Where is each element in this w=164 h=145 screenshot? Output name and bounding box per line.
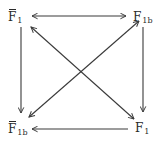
node-base: F	[133, 11, 141, 23]
commutative-diagram: F 1 F 1b F 1b F 1	[0, 0, 164, 145]
node-top-left: F 1	[8, 11, 22, 25]
node-base: F	[135, 122, 143, 134]
node-bottom-left: F 1b	[8, 123, 28, 137]
node-subscript: 1	[144, 127, 149, 136]
overbar	[9, 121, 16, 122]
node-letter: F	[8, 122, 16, 136]
node-subscript: 1b	[17, 128, 27, 137]
arrow-diagonal-tl-br	[31, 27, 134, 119]
node-subscript: 1	[17, 16, 22, 25]
node-base: F	[8, 123, 16, 135]
arrow-diagonal-tr-bl	[29, 21, 139, 117]
node-bottom-right: F 1	[135, 122, 149, 136]
node-letter: F	[8, 10, 16, 24]
overbar	[9, 9, 16, 10]
node-letter: F	[135, 121, 143, 135]
node-subscript: 1b	[142, 16, 152, 25]
node-letter: F	[133, 10, 141, 24]
node-top-right: F 1b	[133, 11, 153, 25]
node-base: F	[8, 11, 16, 23]
